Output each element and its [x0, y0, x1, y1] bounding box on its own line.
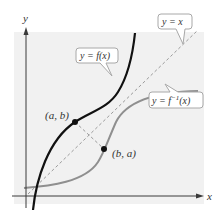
point-b-a — [101, 146, 107, 152]
point-b-a-label: (b, a) — [112, 147, 136, 160]
point-a-b-label: (a, b) — [45, 109, 69, 122]
inverse-function-diagram: y x (a, b) (b, a) y = f(x) y = x y = f−1… — [0, 0, 224, 217]
identity-label: y = x — [161, 16, 183, 27]
y-axis-label: y — [22, 12, 28, 24]
x-axis-label: x — [206, 190, 212, 202]
f-label: y = f(x) — [79, 50, 111, 62]
y-axis-arrow-icon — [24, 27, 29, 35]
point-a-b — [72, 119, 78, 125]
